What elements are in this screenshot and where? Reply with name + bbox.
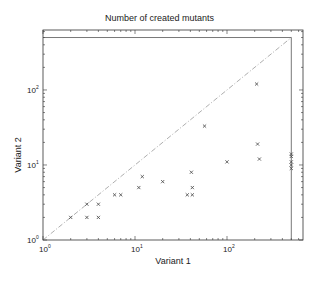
data-point-marker — [85, 216, 88, 219]
svg-text:0: 0 — [36, 234, 39, 240]
data-point-marker — [191, 193, 194, 196]
data-point-marker — [191, 186, 194, 189]
data-point-marker — [256, 142, 259, 145]
data-points — [69, 82, 293, 219]
diagonal-reference-line — [43, 38, 291, 240]
svg-text:0: 0 — [48, 243, 51, 249]
svg-text:2: 2 — [36, 84, 39, 90]
data-point-marker — [97, 203, 100, 206]
svg-text:1: 1 — [140, 243, 143, 249]
data-point-marker — [85, 203, 88, 206]
data-point-marker — [190, 171, 193, 174]
svg-text:2: 2 — [232, 243, 235, 249]
scatter-plot: 100100101101102102 — [0, 0, 319, 283]
data-point-marker — [137, 186, 140, 189]
data-point-marker — [97, 216, 100, 219]
data-point-marker — [255, 82, 258, 85]
data-point-marker — [113, 193, 116, 196]
data-point-marker — [119, 193, 122, 196]
tick-labels: 100100101101102102 — [27, 84, 235, 254]
data-point-marker — [186, 193, 189, 196]
svg-text:1: 1 — [36, 159, 39, 165]
data-point-marker — [258, 157, 261, 160]
data-point-marker — [225, 160, 228, 163]
data-point-marker — [161, 180, 164, 183]
data-point-marker — [203, 124, 206, 127]
data-point-marker — [69, 216, 72, 219]
data-point-marker — [141, 175, 144, 178]
